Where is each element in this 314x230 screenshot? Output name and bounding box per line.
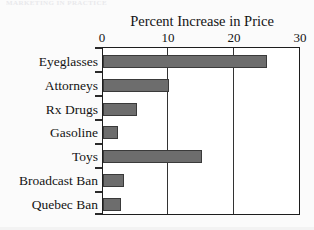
x-tick-label-20: 20 xyxy=(219,31,249,45)
y-label-broadcast-ban: Broadcast Ban xyxy=(0,173,98,188)
y-label-quebec-ban: Quebec Ban xyxy=(0,197,98,212)
x-tick-label-30: 30 xyxy=(285,31,314,45)
y-axis-tick xyxy=(95,47,102,49)
y-label-attorneys: Attorneys xyxy=(0,78,98,93)
bar-eyeglasses xyxy=(103,55,267,68)
y-axis-tick xyxy=(95,95,102,97)
bar-gasoline xyxy=(103,126,118,139)
gridline-20 xyxy=(233,48,234,214)
chart-title: Percent Increase in Price xyxy=(102,13,302,29)
y-axis-tick xyxy=(95,191,102,193)
gridline-10 xyxy=(167,48,168,214)
y-label-gasoline: Gasoline xyxy=(0,125,98,140)
bar-attorneys xyxy=(103,79,169,92)
x-tick-label-10: 10 xyxy=(153,31,183,45)
figure: MARKETING IN PRACTICE Percent Increase i… xyxy=(0,0,314,230)
bar-quebec-ban xyxy=(103,198,121,211)
y-axis-tick xyxy=(95,71,102,73)
x-tick-label-0: 0 xyxy=(87,31,117,45)
y-axis-tick xyxy=(95,143,102,145)
page-edge xyxy=(0,227,314,230)
bar-rx-drugs xyxy=(103,103,137,116)
y-label-rx-drugs: Rx Drugs xyxy=(0,102,98,117)
y-axis-tick xyxy=(95,119,102,121)
y-axis-tick xyxy=(95,167,102,169)
y-label-eyeglasses: Eyeglasses xyxy=(0,54,98,69)
clipped-caption-fragment: MARKETING IN PRACTICE xyxy=(6,0,156,7)
bar-toys xyxy=(103,150,202,163)
y-axis-tick xyxy=(95,213,102,215)
plot-area xyxy=(102,47,300,215)
bar-broadcast-ban xyxy=(103,174,124,187)
y-label-toys: Toys xyxy=(0,149,98,164)
